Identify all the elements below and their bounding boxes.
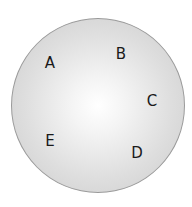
label-c: C [147, 94, 157, 109]
circle-region [11, 18, 185, 193]
label-d: D [131, 146, 143, 161]
label-e: E [45, 134, 54, 149]
label-b: B [116, 47, 126, 62]
label-a: A [45, 56, 55, 71]
